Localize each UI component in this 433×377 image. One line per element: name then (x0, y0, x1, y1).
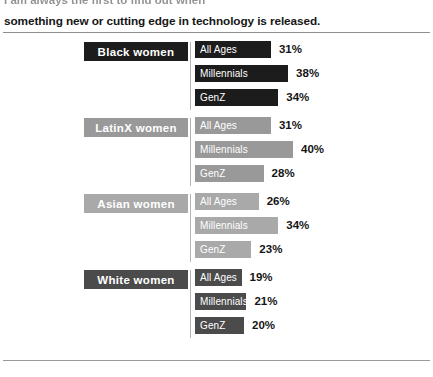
bar-category-label: Millennials (195, 296, 248, 307)
bar-value-label: 38% (296, 66, 319, 81)
bar-row: GenZ34% (195, 89, 433, 113)
bar-row: Millennials40% (195, 141, 433, 165)
group-label-text: Black women (84, 42, 188, 61)
bar-category-label: Millennials (195, 220, 248, 231)
clipped-caption-text: I am always the first to find out when (4, 0, 429, 6)
top-divider (3, 32, 430, 33)
group-connector-line (190, 42, 191, 110)
caption-text: something new or cutting edge in technol… (4, 14, 428, 28)
bar-value-label: 40% (301, 142, 324, 157)
bar-category-label: GenZ (195, 244, 225, 255)
bar-row: Millennials21% (195, 293, 433, 317)
bar-millennials: Millennials (195, 217, 278, 234)
chart-group: LatinX womenAll Ages31%Millennials40%Gen… (0, 114, 433, 190)
group-label-text: Asian women (84, 194, 188, 213)
group-label-latinx-women: LatinX women (84, 118, 188, 137)
bar-value-label: 26% (267, 194, 290, 209)
bar-millennials: Millennials (195, 293, 246, 310)
bar-row: Millennials34% (195, 217, 433, 241)
grouped-bar-chart: Black womenAll Ages31%Millennials38%GenZ… (0, 38, 433, 342)
bar-all-ages: All Ages (195, 41, 271, 58)
group-connector-line (190, 270, 191, 338)
bar-category-label: GenZ (195, 92, 225, 103)
bar-value-label: 31% (279, 118, 302, 133)
bar-genz: GenZ (195, 89, 278, 106)
clipped-caption: I am always the first to find out when (4, 0, 429, 7)
bar-row: All Ages26% (195, 193, 433, 217)
group-connector-line (190, 118, 191, 186)
bar-all-ages: All Ages (195, 193, 259, 210)
bar-list: All Ages26%Millennials34%GenZ23% (195, 193, 433, 265)
group-label-black-women: Black women (84, 42, 188, 61)
bar-value-label: 23% (259, 242, 282, 257)
chart-group: Black womenAll Ages31%Millennials38%GenZ… (0, 38, 433, 114)
bar-value-label: 21% (254, 294, 277, 309)
bar-list: All Ages31%Millennials40%GenZ28% (195, 117, 433, 189)
bar-category-label: All Ages (195, 120, 237, 131)
chart-group: Asian womenAll Ages26%Millennials34%GenZ… (0, 190, 433, 266)
bar-value-label: 34% (286, 90, 309, 105)
bar-row: GenZ20% (195, 317, 433, 341)
bar-category-label: All Ages (195, 44, 237, 55)
bar-row: Millennials38% (195, 65, 433, 89)
bar-row: All Ages19% (195, 269, 433, 293)
bar-value-label: 28% (272, 166, 295, 181)
bar-genz: GenZ (195, 317, 244, 334)
bar-category-label: GenZ (195, 168, 225, 179)
bar-value-label: 20% (252, 318, 275, 333)
bar-category-label: GenZ (195, 320, 225, 331)
bar-all-ages: All Ages (195, 117, 271, 134)
bar-value-label: 19% (250, 270, 273, 285)
bar-row: All Ages31% (195, 41, 433, 65)
group-label-text: White women (84, 270, 188, 289)
bar-all-ages: All Ages (195, 269, 242, 286)
bar-list: All Ages31%Millennials38%GenZ34% (195, 41, 433, 113)
bar-row: All Ages31% (195, 117, 433, 141)
bar-value-label: 34% (286, 218, 309, 233)
group-label-asian-women: Asian women (84, 194, 188, 213)
bar-genz: GenZ (195, 241, 251, 258)
bar-category-label: All Ages (195, 196, 237, 207)
group-connector-line (190, 194, 191, 262)
bar-millennials: Millennials (195, 141, 293, 158)
bar-row: GenZ23% (195, 241, 433, 265)
group-label-white-women: White women (84, 270, 188, 289)
bar-genz: GenZ (195, 165, 264, 182)
bottom-divider (3, 360, 430, 361)
chart-group: White womenAll Ages19%Millennials21%GenZ… (0, 266, 433, 342)
bar-list: All Ages19%Millennials21%GenZ20% (195, 269, 433, 341)
bar-category-label: All Ages (195, 272, 237, 283)
bar-value-label: 31% (279, 42, 302, 57)
bar-millennials: Millennials (195, 65, 288, 82)
bar-category-label: Millennials (195, 144, 248, 155)
bar-category-label: Millennials (195, 68, 248, 79)
bar-row: GenZ28% (195, 165, 433, 189)
group-label-text: LatinX women (84, 118, 188, 137)
